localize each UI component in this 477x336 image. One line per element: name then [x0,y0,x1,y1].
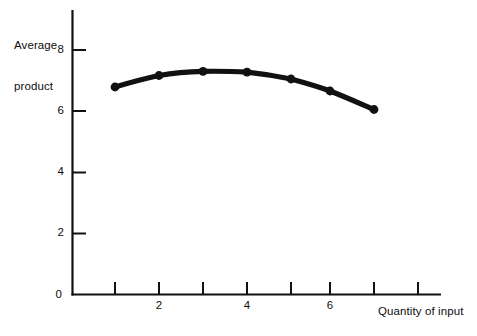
average-product-chart: Average product 8 6 4 2 0 2 4 6 Quantity… [0,0,477,336]
data-point [287,75,296,84]
x-tick-label-4: 4 [237,299,257,312]
data-point [326,87,335,96]
data-point [111,83,120,92]
plot-area [0,0,477,336]
y-tick-label-8: 8 [44,43,64,56]
y-tick-label-2: 2 [44,226,64,239]
x-tick-label-6: 6 [320,299,340,312]
y-tick-marks [73,50,87,234]
x-tick-label-2: 2 [149,299,169,312]
data-point [370,105,379,114]
data-point [199,67,208,76]
x-axis-title: Quantity of input [378,305,463,318]
data-point-markers [111,67,379,114]
data-point [243,68,252,77]
average-product-curve [115,71,374,109]
y-tick-label-4: 4 [44,165,64,178]
data-point [155,71,164,80]
origin-label-zero: 0 [48,288,62,301]
y-tick-label-6: 6 [44,104,64,117]
x-tick-marks [115,282,418,295]
y-axis-title-line-2: product [14,80,57,94]
